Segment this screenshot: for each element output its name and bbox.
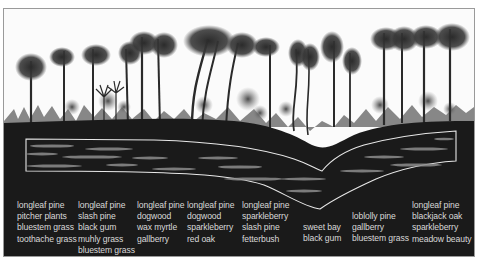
species-label: longleaf pine [242, 200, 289, 211]
species-label: slash pine [242, 222, 289, 233]
species-label: bluestem grass [352, 233, 409, 244]
community-column-1: longleaf pine pitcher plants bluestem gr… [17, 200, 77, 245]
community-column-4: longleaf pine dogwood sparkleberry red o… [187, 200, 234, 245]
species-label: longleaf pine [17, 200, 77, 211]
species-label: dogwood [187, 211, 234, 222]
community-column-6: sweet bay black gum [303, 222, 341, 244]
community-column-3: longleaf pine dogwood wax myrtle gallber… [137, 200, 184, 245]
species-label: longleaf pine [187, 200, 234, 211]
species-label: loblolly pine [352, 211, 409, 222]
community-labels: longleaf pine pitcher plants bluestem gr… [4, 9, 474, 256]
species-label: longleaf pine [78, 200, 135, 211]
species-label: dogwood [137, 211, 184, 222]
species-label: muhly grass [78, 234, 135, 245]
species-label: fetterbush [242, 234, 289, 245]
community-column-7: loblolly pine gallberry bluestem grass [352, 211, 409, 245]
species-label: gallberry [137, 234, 184, 245]
diagram-frame: longleaf pine pitcher plants bluestem gr… [3, 8, 475, 257]
species-label: slash pine [78, 211, 135, 222]
species-label: sparkleberry [412, 222, 471, 233]
species-label: black gum [303, 233, 341, 244]
species-label: toothache grass [17, 234, 77, 245]
species-label: sparkleberry [242, 211, 289, 222]
species-label: pitcher plants [17, 211, 77, 222]
species-label: bluestem grass [17, 222, 77, 233]
species-label: black gum [78, 222, 135, 233]
community-column-5: longleaf pine sparkleberry slash pine fe… [242, 200, 289, 245]
species-label: longleaf pine [137, 200, 184, 211]
community-column-2: longleaf pine slash pine black gum muhly… [78, 200, 135, 256]
species-label: longleaf pine [412, 200, 471, 211]
community-column-8: longleaf pine blackjack oak sparkleberry… [412, 200, 471, 245]
species-label: meadow beauty [412, 234, 471, 245]
species-label: red oak [187, 234, 234, 245]
species-label: sweet bay [303, 222, 341, 233]
species-label: blackjack oak [412, 211, 471, 222]
species-label: wax myrtle [137, 222, 184, 233]
species-label: gallberry [352, 222, 409, 233]
species-label: sparkleberry [187, 222, 234, 233]
species-label: bluestem grass [78, 245, 135, 256]
